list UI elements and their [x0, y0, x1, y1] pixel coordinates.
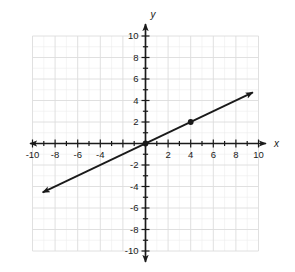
x-tick-label: 2	[165, 149, 170, 160]
x-tick-label: -4	[96, 149, 104, 160]
x-tick-label: 6	[211, 149, 216, 160]
y-tick-label: -2	[130, 159, 138, 170]
x-tick-label: 10	[253, 149, 264, 160]
x-tick-label: -10	[26, 149, 40, 160]
y-tick-label: -10	[125, 245, 139, 256]
y-tick-label: -8	[130, 224, 138, 235]
y-tick-label: 6	[133, 73, 138, 84]
y-axis-label: y	[150, 9, 157, 20]
y-tick-label: 2	[133, 116, 138, 127]
y-tick-label: -6	[130, 202, 138, 213]
y-tick-label: 4	[133, 95, 138, 106]
canvas-background	[0, 0, 295, 272]
data-point	[143, 141, 149, 147]
data-point	[188, 119, 194, 125]
x-tick-label: -8	[51, 149, 59, 160]
coordinate-plane: -10-8-6-4246810 108642-2-4-6-8-10 x y	[0, 0, 295, 272]
x-tick-label: 4	[188, 149, 193, 160]
x-axis-label: x	[273, 138, 280, 149]
graph-container: -10-8-6-4246810 108642-2-4-6-8-10 x y	[0, 0, 295, 272]
y-tick-label: 10	[128, 30, 139, 41]
x-tick-label: -6	[73, 149, 81, 160]
y-tick-label: -4	[130, 181, 138, 192]
y-tick-label: 8	[133, 52, 138, 63]
x-tick-label: 8	[233, 149, 238, 160]
